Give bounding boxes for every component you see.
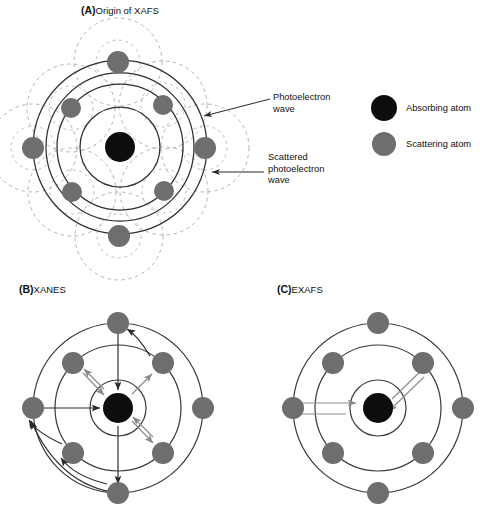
scattering-atom-lower-left (322, 442, 344, 464)
scattering-atom-right (192, 397, 214, 419)
scattering-atom-upper-right (412, 352, 434, 374)
scattering-atom-right (452, 397, 474, 419)
scattering-atom-left (22, 397, 44, 419)
panel-a-diagram (0, 18, 270, 280)
scattering-atom-upper-left (62, 352, 84, 374)
scattering-atom-upper-left (61, 98, 81, 118)
absorbing-atom-panel-c (363, 393, 393, 423)
scattering-atom-lower-left (62, 442, 84, 464)
arrow-upper-left-outward (84, 369, 104, 389)
scattering-atom-bottom (108, 225, 130, 247)
panel-c-diagram (282, 312, 474, 504)
scattering-atom-lower-right (152, 442, 174, 464)
panel-b-diagram (22, 312, 214, 504)
scattering-atom-upper-left (322, 352, 344, 374)
xafs-figure (0, 0, 489, 512)
scattering-atom-top (367, 312, 389, 334)
scattering-atom-bottom (107, 482, 129, 504)
scattering-atom-upper-right (153, 95, 173, 115)
absorbing-atom-panel-b (103, 393, 133, 423)
legend (371, 95, 397, 156)
scattering-atom-lower-left (62, 182, 82, 202)
legend-swatch-scattering-atom (372, 132, 396, 156)
arrow-upper-right-outward (132, 374, 152, 394)
scattering-atom-lower-right (154, 181, 174, 201)
scattering-atom-left (22, 137, 44, 159)
scattering-atom-right (194, 137, 216, 159)
scattering-atom-top (107, 51, 129, 73)
arrow-lower-right-outward (132, 421, 153, 443)
scattering-atom-left (282, 397, 304, 419)
legend-swatch-absorbing-atom (371, 95, 397, 121)
scattering-atom-top (107, 312, 129, 334)
scattering-atom-lower-right (412, 442, 434, 464)
scattering-atom-bottom (367, 482, 389, 504)
scattering-atom-upper-right (152, 352, 174, 374)
arrow-upper-left-inward (83, 373, 104, 395)
photoelectron-wave-arrow (204, 99, 270, 116)
absorbing-atom (105, 132, 135, 162)
